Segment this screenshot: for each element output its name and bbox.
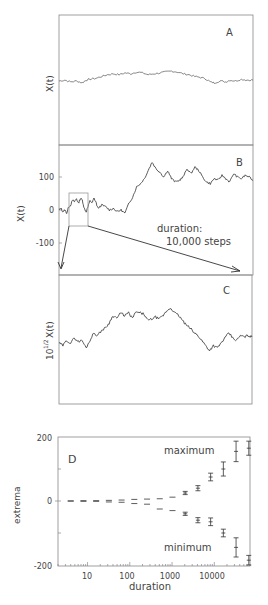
panel-b-ytick-0: 0 [49,206,54,215]
zoom-arrow-left [61,226,69,268]
panel-d-points [68,441,252,565]
legend-maximum: maximum [164,445,214,456]
panel-c: C 10 1/2 X(t) [42,275,252,404]
duration-label-line2: 10,000 steps [166,236,231,247]
panel-d-frame [58,437,250,566]
ylabel-exponent: 1/2 [42,339,49,349]
duration-label-line1: duration: [157,223,202,234]
panel-d-xticks [58,562,250,566]
panel-d-xtick-1000: 1000 [160,572,180,581]
panel-c-curve [59,309,252,351]
figure: A X(t) B X(t) 100 0 -100 duration: 10,00… [0,0,268,605]
panel-a-frame [59,15,253,145]
panel-c-label: C [223,285,230,296]
panel-c-ylabel: 10 1/2 X(t) [42,321,55,360]
panel-a-curve [59,71,253,83]
panel-d-ytick-0: 0 [47,497,52,506]
panel-a-label: A [226,27,233,38]
panel-d-ytick-200: 200 [37,434,52,443]
panel-d-xtick-100: 100 [119,572,134,581]
panel-d-ytick-minus-200: -200 [34,562,52,571]
ylabel-base: 10 [45,348,55,360]
panel-a: A X(t) [45,15,253,145]
panel-d: D extrema 200 0 -200 10 100 1000 10000 d… [12,434,251,592]
panel-b-ytick-minus-100: -100 [36,239,54,248]
panel-b-ytick-100: 100 [39,173,54,182]
panel-b: B X(t) 100 0 -100 duration: 10,000 steps [16,145,253,275]
panel-a-ylabel: X(t) [45,75,55,92]
panel-d-xlabel: duration [129,581,171,592]
panel-d-xtick-10: 10 [82,572,92,581]
panel-d-ylabel: extrema [12,486,22,524]
legend-minimum: minimum [164,542,211,553]
ylabel-rest: X(t) [45,321,55,338]
panel-b-label: B [236,157,243,168]
panel-d-xtick-10000: 10000 [199,572,224,581]
panel-d-label: D [68,453,76,466]
panel-b-ylabel: X(t) [16,205,26,222]
